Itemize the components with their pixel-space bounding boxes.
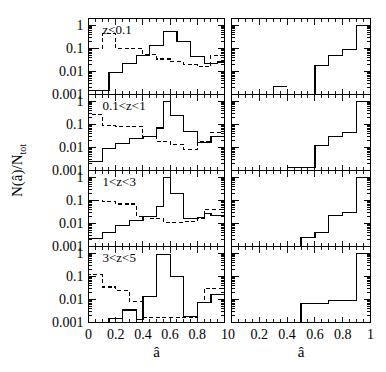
y-tick-label: 0.1	[66, 269, 84, 284]
panel-right-row1	[232, 95, 371, 171]
y-tick-label: 1	[77, 170, 84, 185]
panel-right-row3	[232, 247, 371, 323]
y-tick-label: 0.1	[66, 41, 84, 56]
y-tick-label: 0.1	[66, 117, 84, 132]
x-tick-label: 0.4	[278, 327, 296, 342]
y-tick-label: 0.001	[52, 315, 84, 330]
x-tick-label: 0	[228, 327, 235, 342]
y-axis-label: N(â)/Ntot	[9, 144, 28, 197]
y-tick-label: 0.01	[59, 292, 84, 307]
x-tick-label: 1	[367, 327, 374, 342]
panel-frame	[232, 19, 371, 95]
x-tick-label: 0.2	[251, 327, 269, 342]
panel-left-row3: 3<z<5	[89, 247, 225, 323]
y-tick-label: 0.01	[59, 216, 84, 231]
x-tick-label: 1	[221, 327, 228, 342]
x-tick-label: 0.6	[306, 327, 324, 342]
y-axis-label-text: N(â)/Ntot	[9, 144, 28, 197]
histogram-solid	[301, 177, 371, 246]
panel-label: 0.1<z<1	[103, 98, 146, 113]
x-tick-label: 0.8	[334, 327, 352, 342]
panel-right-row0	[232, 19, 371, 95]
figure-container: z<0.10.1<z<11<z<33<z<510.10.010.00110.10…	[0, 0, 386, 372]
y-tick-label: 0.01	[59, 140, 84, 155]
y-axis-label-subscript: tot	[17, 144, 28, 155]
panel-left-row1: 0.1<z<1	[89, 95, 225, 171]
panel-right-row2	[232, 171, 371, 247]
histogram-solid	[287, 101, 370, 170]
multi-panel-histogram-figure: z<0.10.1<z<11<z<33<z<510.10.010.00110.10…	[0, 0, 386, 372]
y-tick-label: 0.01	[59, 64, 84, 79]
x-tick-label: 0.8	[189, 327, 207, 342]
panel-left-row0: z<0.1	[89, 19, 225, 95]
y-tick-label: 1	[77, 94, 84, 109]
histogram-solid	[89, 31, 225, 94]
y-tick-label: 1	[77, 246, 84, 261]
panel-label: 1<z<3	[103, 174, 136, 189]
x-axis-label: â	[153, 344, 160, 360]
panel-label: z<0.1	[103, 22, 132, 37]
x-tick-label: 0.2	[107, 327, 125, 342]
x-axis-label: â	[298, 344, 305, 360]
x-tick-label: 0.4	[134, 327, 152, 342]
panel-left-row2: 1<z<3	[89, 171, 225, 247]
y-tick-label: 0.1	[66, 193, 84, 208]
panel-label: 3<z<5	[103, 250, 136, 265]
panel-frame	[232, 171, 371, 247]
x-tick-label: 0.6	[161, 327, 179, 342]
histogram-solid	[273, 25, 370, 94]
x-tick-label: 0	[85, 327, 92, 342]
y-tick-label: 1	[77, 18, 84, 33]
histogram-solid	[301, 253, 371, 322]
